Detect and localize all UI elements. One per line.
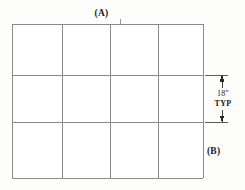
cell-r2c1 [12, 75, 62, 122]
grid-cells [12, 24, 203, 178]
diagram-canvas: (A) (B) 18" TYP [0, 0, 245, 190]
arrow-down-icon [220, 116, 225, 123]
cell-r1c2 [62, 24, 110, 75]
cell-r1c1 [12, 24, 62, 75]
cell-r1c3 [110, 24, 158, 75]
cell-r2c4 [158, 75, 203, 122]
arrow-up-icon [220, 75, 225, 82]
dimension-value-text: 18" [206, 89, 240, 98]
cell-r2c2 [62, 75, 110, 122]
cell-r1c4 [158, 24, 203, 75]
cell-r3c3 [110, 122, 158, 178]
label-a: (A) [0, 8, 203, 18]
cell-r3c1 [12, 122, 62, 178]
dimension-note-text: TYP [206, 99, 240, 108]
cell-r3c2 [62, 122, 110, 178]
cell-r3c4 [158, 122, 203, 178]
cell-r2c3 [110, 75, 158, 122]
label-b: (B) [207, 146, 220, 156]
